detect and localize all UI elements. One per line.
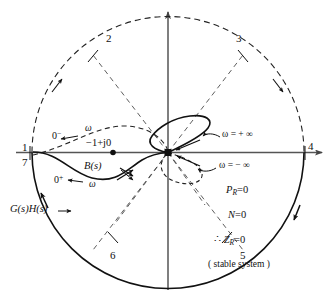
critical-point-marker <box>110 150 116 156</box>
critical-point-label: −1+j0 <box>86 138 111 149</box>
origin-marker <box>165 149 172 156</box>
omega-symbol-upper: ω <box>85 124 92 134</box>
stable-system-label: ( stable system ) <box>208 260 270 270</box>
pr-value: =0 <box>237 184 248 195</box>
nyquist-diagram-svg <box>0 0 335 304</box>
contour-point-4-label: 4 <box>308 141 314 152</box>
contour-point-1-label: 1 <box>22 142 28 153</box>
n-value: =0 <box>235 209 246 220</box>
therefore-symbol: ∴ <box>214 234 224 245</box>
b-of-s-label: B(s) <box>84 161 102 172</box>
omega-symbol-lower: ω <box>89 180 96 190</box>
dashed-arc-direction-arrow-upper-left <box>52 79 62 92</box>
contour-point-7-label: 7 <box>22 157 28 168</box>
contour-point-6-label: 6 <box>110 250 116 261</box>
n-line: N=0 <box>228 210 290 221</box>
pr-line: PR=0 <box>226 185 288 196</box>
omega-zero-plus-leader <box>68 180 83 182</box>
zero-minus-sup: − <box>57 129 61 138</box>
zero-plus-sup: + <box>59 173 63 182</box>
gh-of-s-label: G(s)H(s) <box>10 204 47 215</box>
stability-note: PR=0 N=0 ∴ ZR=0 ( stable system ) <box>212 185 274 227</box>
n-symbol: N <box>228 209 235 220</box>
omega-plus-infinity-label: ω = + ∞ <box>222 130 253 140</box>
omega-zero-minus-leader <box>61 136 78 139</box>
omega-minus-infinity-label: ω = − ∞ <box>219 161 250 171</box>
zr-value: =0 <box>234 234 245 245</box>
omega-zero-minus-label: 0− <box>52 130 61 141</box>
contour-point-3-label: 3 <box>236 33 242 44</box>
contour-point-2-label: 2 <box>106 33 112 44</box>
zr-line: ∴ ZR=0 <box>214 235 276 246</box>
dashed-arc-direction-arrow-upper-right <box>273 79 283 92</box>
omega-plus-inf-leader <box>203 134 220 137</box>
omega-zero-plus-label: 0+ <box>54 174 63 185</box>
nyquist-figure: 2 3 1 4 7 5 6 −1+j0 B(s) G(s)H(s) 0− ω 0… <box>0 0 335 304</box>
